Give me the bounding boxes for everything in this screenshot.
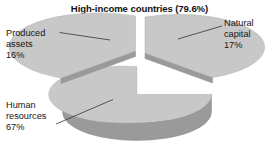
slice-label-natural-capital-line1: Natural xyxy=(224,18,254,29)
slice-label-natural-capital-line2: capital xyxy=(224,29,254,40)
slice-label-human-resources-line2: resources xyxy=(6,111,46,122)
slice-label-produced-assets: Produced assets 16% xyxy=(6,28,45,62)
slice-label-human-resources-line1: Human xyxy=(6,100,46,111)
slice-value-produced-assets: 16% xyxy=(6,50,45,61)
slice-label-produced-assets-line2: assets xyxy=(6,39,45,50)
slice-value-natural-capital: 17% xyxy=(224,40,254,51)
slice-label-natural-capital: Natural capital 17% xyxy=(224,18,254,52)
pie-chart-figure: High-income countries (79.6%) xyxy=(0,0,279,159)
slice-label-produced-assets-line1: Produced xyxy=(6,28,45,39)
slice-label-human-resources: Human resources 67% xyxy=(6,100,46,134)
slice-value-human-resources: 67% xyxy=(6,122,46,133)
